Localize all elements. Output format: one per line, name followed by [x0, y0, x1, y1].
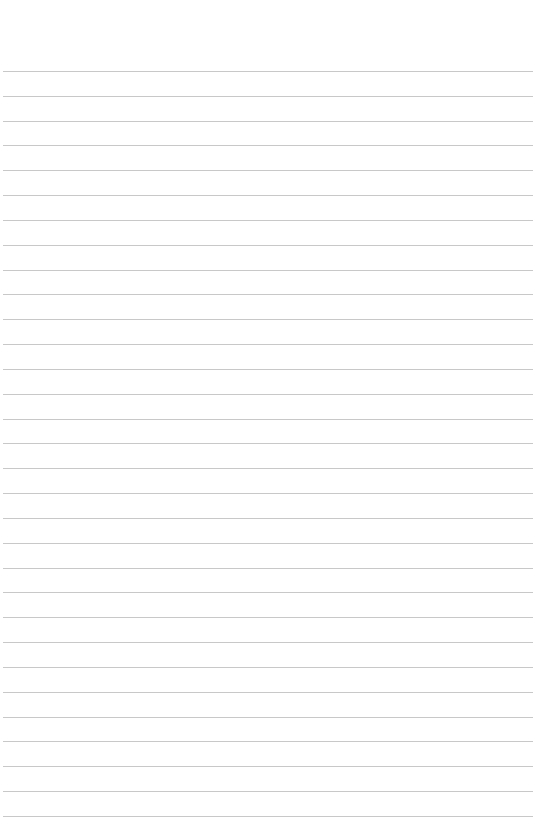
ruled-line [3, 294, 533, 295]
ruled-line [3, 692, 533, 693]
ruled-line [3, 270, 533, 271]
ruled-line [3, 195, 533, 196]
ruled-line [3, 96, 533, 97]
ruled-line [3, 145, 533, 146]
ruled-line [3, 443, 533, 444]
ruled-line [3, 568, 533, 569]
ruled-line [3, 493, 533, 494]
ruled-line [3, 518, 533, 519]
ruled-line [3, 816, 533, 817]
ruled-line [3, 741, 533, 742]
ruled-line [3, 319, 533, 320]
ruled-line [3, 121, 533, 122]
ruled-line [3, 617, 533, 618]
lined-paper-page [0, 0, 536, 835]
ruled-line [3, 394, 533, 395]
ruled-line [3, 220, 533, 221]
ruled-line [3, 369, 533, 370]
ruled-line [3, 419, 533, 420]
ruled-line [3, 642, 533, 643]
ruled-line [3, 667, 533, 668]
ruled-line [3, 245, 533, 246]
ruled-line [3, 170, 533, 171]
ruled-line [3, 592, 533, 593]
ruled-line [3, 71, 533, 72]
ruled-line [3, 717, 533, 718]
ruled-line [3, 791, 533, 792]
ruled-line [3, 468, 533, 469]
ruled-line [3, 344, 533, 345]
ruled-line [3, 543, 533, 544]
ruled-line [3, 766, 533, 767]
